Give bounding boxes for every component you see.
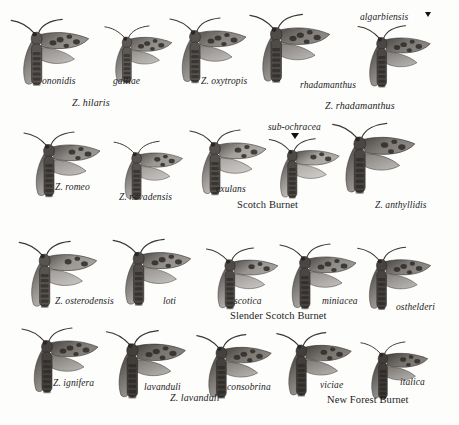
species-label-zosterodensis: Z. osterodensis [55,296,114,306]
genus-label-zlavanduli: Z. lavanduli [170,392,220,403]
species-label-viciae: viciae [320,380,343,390]
genus-label-zhilaris: Z. hilaris [72,97,110,108]
species-label-znevadensis: Z. nevadensis [119,192,172,202]
sub-ochracea-marker-icon [291,133,299,139]
species-label-zromeo: Z. romeo [55,182,90,192]
species-label-algarbiensis: algarbiensis [360,12,408,22]
common-name-label-newforestburnet: New Forest Burnet [327,394,409,405]
species-label-ononidis: ononidis [42,76,76,86]
species-label-galliae: galliae [113,76,140,86]
specimen-plate: ononidisgalliaeZ. oxytropisrhadamanthusa… [0,0,459,425]
species-label-loti: loti [163,296,176,306]
species-label-scotica: scotica [234,296,262,306]
species-label-zignifera: Z. ignifera [53,378,94,388]
species-label-zoxytropis: Z. oxytropis [201,76,247,86]
species-label-sub-ochracea: sub-ochracea [268,122,321,132]
genus-label-zrhadamanthus: Z. rhadamanthus [325,100,395,111]
species-label-lavanduli: lavanduli [144,382,181,392]
species-label-zanthyllidis: Z. anthyllidis [375,200,427,210]
specimen-viciae [273,331,361,400]
species-label-italica: italica [400,377,425,387]
specimen-algarbiensis [354,24,440,91]
species-label-rhadamanthus: rhadamanthus [300,80,356,90]
common-name-label-scotchburnet: Scotch Burnet [237,199,298,210]
specimen-anthyllidis [328,121,425,197]
algarbiensis-marker-icon [425,12,431,17]
common-name-label-slenderscotchburnet: Slender Scotch Burnet [230,310,327,321]
specimen-loti [109,237,201,308]
species-label-exulans: exulans [216,184,246,194]
species-label-osthelderi: osthelderi [396,302,435,312]
species-label-consobrina: consobrina [227,382,271,392]
specimen-rhadamanthus [246,12,341,86]
species-label-miniacea: miniacea [322,296,358,306]
specimen-italica [357,340,436,402]
